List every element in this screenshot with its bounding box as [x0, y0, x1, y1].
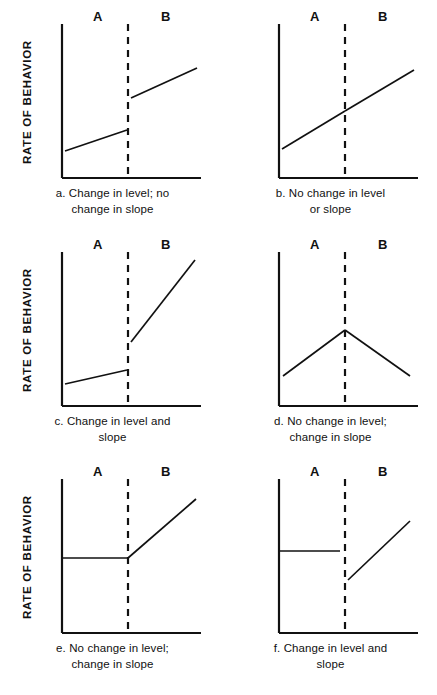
y-axis-label: RATE OF BEHAVIOR [17, 473, 39, 641]
panel-b: A B b. No change in level or slope [218, 0, 436, 232]
data-line-phase-b [128, 499, 196, 558]
data-line-phase-a [65, 370, 127, 384]
caption-line-2: change in slope [10, 657, 215, 673]
caption-line-1: a. Change in level; no [10, 186, 215, 202]
data-line-phase-a [283, 330, 345, 376]
phase-label-a: A [93, 238, 102, 251]
panel-caption-e: e. No change in level; change in slope [10, 641, 215, 672]
phase-label-a: A [93, 465, 102, 478]
caption-line-2: slope [10, 430, 215, 446]
phase-label-a: A [310, 465, 319, 478]
phase-label-b: B [161, 238, 170, 251]
plot-area-d: A B [262, 236, 422, 412]
panel-f: A B f. Change in level and slope [218, 455, 436, 687]
caption-line-1: d. No change in level; [228, 414, 433, 430]
panel-d: A B d. No change in level; change in slo… [218, 228, 436, 460]
panel-e: RATE OF BEHAVIOR A B e. No change in lev… [0, 455, 218, 687]
data-line-phase-b [131, 260, 195, 342]
phase-label-a: A [310, 10, 319, 23]
caption-line-1: f. Change in level and [228, 641, 433, 657]
phase-label-b: B [378, 10, 387, 23]
panel-caption-c: c. Change in level and slope [10, 414, 215, 445]
ab-design-figure: RATE OF BEHAVIOR A B a. Change in level;… [0, 0, 437, 695]
plot-area-e: A B [45, 463, 205, 639]
plot-area-a: A B [45, 8, 205, 184]
phase-label-a: A [310, 238, 319, 251]
caption-line-2: change in slope [10, 202, 215, 218]
panel-caption-f: f. Change in level and slope [228, 641, 433, 672]
caption-line-1: e. No change in level; [10, 641, 215, 657]
data-line-phase-a [65, 130, 127, 151]
caption-line-2: change in slope [228, 430, 433, 446]
phase-label-a: A [93, 10, 102, 23]
data-line-phase-b [348, 521, 410, 580]
y-axis-label: RATE OF BEHAVIOR [17, 246, 39, 414]
panel-a: RATE OF BEHAVIOR A B a. Change in level;… [0, 0, 218, 232]
data-line-phase-b [345, 330, 410, 376]
plot-area-b: A B [262, 8, 422, 184]
plot-area-f: A B [262, 463, 422, 639]
phase-label-b: B [378, 465, 387, 478]
plot-area-c: A B [45, 236, 205, 412]
caption-line-1: b. No change in level [228, 186, 433, 202]
caption-line-2: or slope [228, 202, 433, 218]
panel-caption-d: d. No change in level; change in slope [228, 414, 433, 445]
panel-caption-a: a. Change in level; no change in slope [10, 186, 215, 217]
data-line-phase-a [282, 111, 345, 149]
phase-label-b: B [378, 238, 387, 251]
data-line-phase-b [345, 70, 414, 111]
caption-line-1: c. Change in level and [10, 414, 215, 430]
y-axis-label: RATE OF BEHAVIOR [17, 18, 39, 186]
caption-line-2: slope [228, 657, 433, 673]
phase-label-b: B [161, 465, 170, 478]
panel-caption-b: b. No change in level or slope [228, 186, 433, 217]
data-line-phase-b [131, 68, 197, 98]
panel-c: RATE OF BEHAVIOR A B c. Change in level … [0, 228, 218, 460]
phase-label-b: B [161, 10, 170, 23]
